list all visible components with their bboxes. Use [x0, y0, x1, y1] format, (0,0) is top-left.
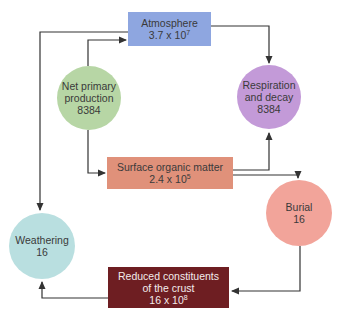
burial-node: Burial 16 [266, 180, 332, 246]
reduced-crust-value: 16 x 108 [149, 294, 187, 306]
reduced-crust-node: Reduced constituents of the crust 16 x 1… [108, 267, 229, 308]
weathering-node: Weathering 16 [9, 213, 75, 279]
arrow-atmosphere-to-respiration [211, 26, 269, 63]
respiration-label-1: Respiration [242, 79, 295, 91]
weathering-label: Weathering [15, 234, 69, 246]
net-primary-production-node: Net primary production 8384 [57, 66, 121, 130]
atmosphere-value: 3.7 x 107 [149, 29, 190, 41]
arrow-netprimary-to-surface [88, 130, 105, 173]
net-primary-label-1: Net primary [62, 80, 116, 92]
arrow-crust-to-weathering [42, 282, 108, 298]
surface-organic-value: 2.4 x 105 [149, 173, 190, 185]
net-primary-value: 8384 [77, 104, 100, 116]
weathering-value: 16 [36, 246, 48, 258]
arrow-surface-to-burial [233, 175, 298, 178]
arrow-netprimary-to-atmosphere [88, 40, 126, 66]
arrow-surface-to-respiration [233, 133, 269, 170]
surface-organic-label: Surface organic matter [117, 161, 223, 173]
reduced-crust-label-1: Reduced constituents [118, 270, 219, 282]
net-primary-label-2: production [64, 92, 113, 104]
atmosphere-node: Atmosphere 3.7 x 107 [128, 12, 211, 46]
respiration-value: 8384 [257, 103, 280, 115]
surface-organic-matter-node: Surface organic matter 2.4 x 105 [107, 157, 233, 189]
respiration-decay-node: Respiration and decay 8384 [237, 65, 301, 129]
burial-label: Burial [286, 201, 313, 213]
arrow-burial-to-crust [232, 246, 300, 291]
respiration-label-2: and decay [245, 91, 293, 103]
reduced-crust-label-2: of the crust [143, 282, 195, 294]
atmosphere-label: Atmosphere [141, 17, 198, 29]
burial-value: 16 [293, 213, 305, 225]
